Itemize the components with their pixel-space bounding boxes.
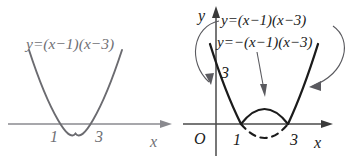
left-panel: 1 3 x y=(x−1)(x−3) bbox=[0, 0, 181, 166]
right-tick-label-3: 3 bbox=[289, 131, 298, 148]
left-x-axis-label: x bbox=[149, 133, 157, 150]
left-tick-label-3: 3 bbox=[94, 128, 103, 145]
right-tick-label-1: 1 bbox=[233, 131, 241, 148]
left-equation-label: y=(x−1)(x−3) bbox=[24, 35, 114, 53]
right-y-axis-label: y bbox=[196, 7, 206, 25]
right-equation-label-lower: y=−(x−1)(x−3) bbox=[215, 34, 312, 51]
right-parabola-left-branch bbox=[210, 44, 241, 124]
right-parabola-right-branch bbox=[288, 44, 318, 124]
left-tick-label-1: 1 bbox=[50, 128, 58, 145]
figure-container: 1 3 x y=(x−1)(x−3) bbox=[0, 0, 362, 166]
right-panel: y x O 3 1 3 y=(x−1)(x−3) y=−(x−1)(x−3) bbox=[181, 0, 362, 166]
center-straight-arrow bbox=[257, 52, 267, 97]
right-x-axis-label: x bbox=[313, 134, 321, 151]
y-intercept-label: 3 bbox=[220, 64, 229, 81]
right-x-axis bbox=[183, 120, 333, 128]
right-equation-label-upper: y=(x−1)(x−3) bbox=[219, 12, 306, 29]
origin-label: O bbox=[194, 130, 206, 147]
lower-dashed-arc bbox=[241, 124, 288, 138]
upper-solid-arc bbox=[241, 109, 288, 124]
right-y-axis bbox=[212, 6, 220, 156]
left-parabola-curve bbox=[29, 50, 122, 135]
